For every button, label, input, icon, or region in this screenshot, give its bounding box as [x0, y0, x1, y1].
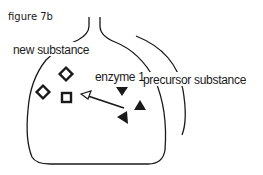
- reaction-arrow-head: [81, 91, 91, 99]
- new-substance-diamond: [60, 68, 73, 81]
- enzyme-triangle-left: [117, 111, 128, 124]
- reaction-arrow-shaft: [88, 96, 124, 108]
- cell-diagram: figure 7b new substance enzyme 1 precurs…: [0, 0, 263, 175]
- enzyme-triangle-up: [134, 100, 146, 110]
- label-new-substance: new substance: [13, 43, 90, 57]
- new-substance-square: [62, 93, 71, 102]
- label-precursor-substance: precursor substance: [143, 73, 247, 87]
- figure-title: figure 7b: [8, 11, 53, 22]
- label-enzyme: enzyme 1: [95, 70, 145, 84]
- enzyme-triangle-down: [116, 87, 128, 96]
- new-substance-diamond: [37, 86, 50, 99]
